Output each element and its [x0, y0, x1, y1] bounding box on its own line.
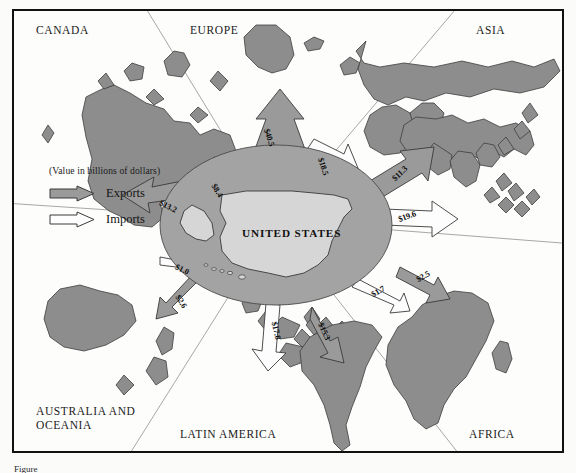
- map-frame: .land { fill:#8d8d8d; stroke:#3e3e3e; st…: [12, 9, 564, 453]
- legend-label-imports: Imports: [106, 212, 145, 227]
- landmass-australia: [44, 285, 174, 395]
- hub-label-united-states: UNITED STATES: [242, 227, 341, 239]
- figure-caption-fragment: Figure: [14, 464, 38, 473]
- trade-flow-figure: .land { fill:#8d8d8d; stroke:#3e3e3e; st…: [0, 0, 576, 473]
- legend: (Value in billions of dollars) Exports I…: [49, 165, 199, 235]
- region-label-africa: AFRICA: [469, 428, 515, 442]
- region-label-australia-oceania: AUSTRALIA AND OCEANIA: [36, 405, 136, 432]
- import-arrow-asia: [384, 201, 458, 237]
- region-label-asia: ASIA: [476, 24, 505, 38]
- legend-label-exports: Exports: [106, 186, 145, 201]
- legend-title: (Value in billions of dollars): [49, 165, 199, 176]
- region-label-latin-america: LATIN AMERICA: [180, 428, 276, 442]
- region-label-europe: EUROPE: [190, 24, 238, 38]
- legend-item-exports: Exports: [49, 183, 199, 204]
- legend-item-imports: Imports: [49, 209, 199, 230]
- region-label-canada: CANADA: [36, 24, 89, 38]
- import-arrow-icon: [49, 211, 95, 228]
- export-arrow-icon: [49, 185, 95, 202]
